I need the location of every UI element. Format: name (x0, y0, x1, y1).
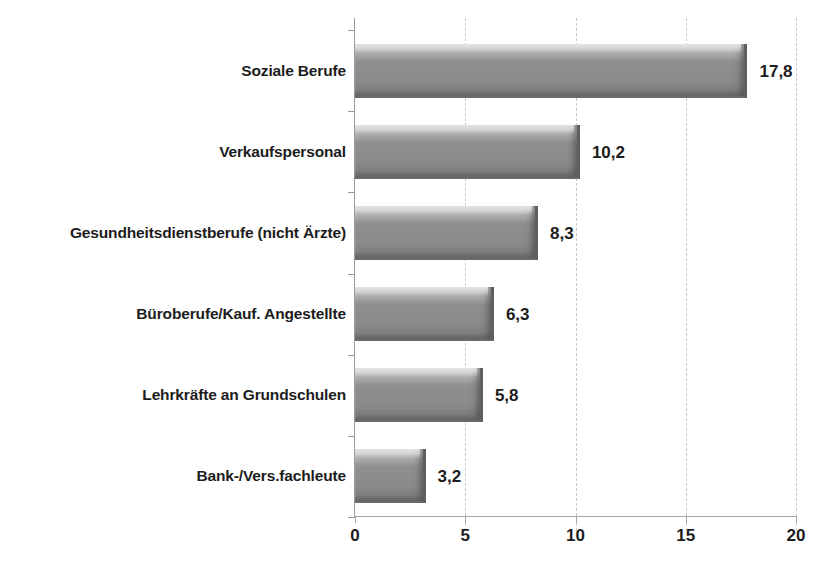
bar (355, 368, 483, 422)
y-axis-tick (348, 30, 355, 31)
bar (355, 449, 426, 503)
y-axis-tick (348, 192, 355, 193)
category-axis-labels: Soziale Berufe Verkaufspersonal Gesundhe… (0, 30, 346, 517)
category-label: Lehrkräfte an Grundschulen (0, 387, 346, 403)
x-axis-tick (355, 517, 356, 523)
x-axis-tick-label: 0 (350, 527, 359, 544)
x-axis-tick-label: 15 (676, 527, 695, 544)
bar-value-label: 3,2 (438, 468, 462, 485)
bar (355, 287, 494, 341)
y-axis-tick (348, 517, 355, 518)
category-label: Büroberufe/Kauf. Angestellte (0, 306, 346, 322)
bar (355, 44, 747, 98)
x-axis-tick-label: 20 (787, 527, 806, 544)
y-axis-tick (348, 274, 355, 275)
y-axis-tick (348, 355, 355, 356)
x-axis-tick-label: 10 (566, 527, 585, 544)
bar-chart: Soziale Berufe Verkaufspersonal Gesundhe… (0, 0, 832, 582)
x-axis-tick (686, 517, 687, 523)
bar-value-label: 6,3 (506, 306, 530, 323)
category-label: Gesundheitsdienstberufe (nicht Ärzte) (0, 225, 346, 241)
bar-value-label: 5,8 (495, 387, 519, 404)
y-axis-tick (348, 111, 355, 112)
bar-value-label: 8,3 (550, 225, 574, 242)
bar-value-label: 17,8 (759, 63, 792, 80)
x-axis-tick (576, 517, 577, 523)
bar-value-label: 10,2 (592, 144, 625, 161)
bar (355, 125, 580, 179)
category-label: Soziale Berufe (0, 63, 346, 79)
x-axis-tick-label: 5 (461, 527, 470, 544)
plot-area: 17,810,28,36,35,83,2 05101520 (355, 30, 796, 517)
x-axis-tick (465, 517, 466, 523)
gridline (796, 18, 797, 531)
category-label: Bank-/Vers.fachleute (0, 468, 346, 484)
category-label: Verkaufspersonal (0, 144, 346, 160)
y-axis-tick (348, 436, 355, 437)
bar (355, 206, 538, 260)
x-axis-tick (796, 517, 797, 523)
